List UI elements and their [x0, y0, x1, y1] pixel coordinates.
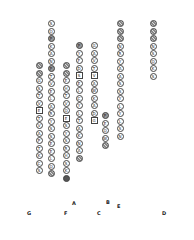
residue: K: [36, 152, 43, 159]
residue: V: [36, 100, 43, 107]
residue: L: [117, 118, 124, 125]
residue: [63, 175, 70, 182]
residue: S: [150, 73, 157, 80]
residue: V: [91, 57, 98, 64]
residue: [36, 62, 43, 69]
residue: [102, 142, 109, 149]
residue: S: [63, 137, 70, 144]
residue: H: [63, 152, 70, 159]
residue: A: [76, 125, 83, 132]
residue: P: [48, 65, 55, 72]
residue: T: [48, 73, 55, 80]
residue: S: [48, 125, 55, 132]
residue: E: [48, 88, 55, 95]
residue: G: [91, 117, 98, 124]
residue: [150, 35, 157, 42]
residue: E: [36, 107, 43, 114]
residue: C: [76, 95, 83, 102]
residue: K: [76, 132, 83, 139]
residue: P: [36, 137, 43, 144]
residue: S: [63, 122, 70, 129]
residue: S: [117, 125, 124, 132]
residue: T: [63, 92, 70, 99]
residue: V: [36, 122, 43, 129]
residue: Y: [76, 50, 83, 57]
residue: [150, 20, 157, 27]
residue: Y: [76, 102, 83, 109]
residue: W: [91, 87, 98, 94]
residue: L: [76, 87, 83, 94]
residue: G: [36, 77, 43, 84]
residue: Y: [63, 130, 70, 137]
residue: L: [48, 155, 55, 162]
residue: S: [150, 50, 157, 57]
residue: T: [76, 117, 83, 124]
residue: A: [48, 103, 55, 110]
label-e: E: [117, 203, 120, 209]
residue: [63, 62, 70, 69]
residue: P: [76, 42, 83, 49]
residue: N: [117, 43, 124, 50]
residue: C: [36, 160, 43, 167]
label-f: F: [64, 210, 67, 216]
residue: Y: [117, 110, 124, 117]
residue: N: [117, 133, 124, 140]
residue: S: [117, 80, 124, 87]
residue: [117, 35, 124, 42]
residue: S: [48, 133, 55, 140]
label-a: A: [72, 200, 76, 206]
residue: A: [91, 80, 98, 87]
residue: E: [48, 148, 55, 155]
residue: N: [150, 43, 157, 50]
residue: S: [36, 85, 43, 92]
residue: D: [91, 110, 98, 117]
residue: G: [91, 42, 98, 49]
residue: S: [48, 20, 55, 27]
residue: D: [76, 65, 83, 72]
residue: R: [48, 110, 55, 117]
label-c: C: [97, 210, 101, 216]
residue: N: [48, 58, 55, 65]
residue: A: [91, 102, 98, 109]
residue: T: [36, 145, 43, 152]
residue: L: [117, 103, 124, 110]
residue: R: [63, 145, 70, 152]
residue: V: [63, 100, 70, 107]
residue: Q: [63, 107, 70, 114]
residue: [63, 70, 70, 77]
residue: P: [48, 35, 55, 42]
residue: E: [76, 80, 83, 87]
residue: A: [117, 65, 124, 72]
residue: Q: [48, 163, 55, 170]
residue: Q: [48, 28, 55, 35]
residue: T: [91, 65, 98, 72]
residue: E: [63, 115, 70, 122]
residue: [150, 28, 157, 35]
residue: S: [76, 72, 83, 79]
residue: Q: [150, 58, 157, 65]
residue: [76, 155, 83, 162]
residue: [36, 70, 43, 77]
residue: S: [117, 88, 124, 95]
residue: A: [36, 130, 43, 137]
residue: L: [76, 110, 83, 117]
residue: [117, 20, 124, 27]
residue: K: [150, 65, 157, 72]
residue: N: [76, 140, 83, 147]
residue: W: [102, 135, 109, 142]
residue: H: [63, 85, 70, 92]
residue: R: [117, 50, 124, 57]
residue: Q: [102, 127, 109, 134]
residue: Y: [117, 58, 124, 65]
residue: S: [36, 167, 43, 174]
residue: K: [63, 167, 70, 174]
residue: T: [36, 115, 43, 122]
residue: [117, 28, 124, 35]
residue: S: [63, 160, 70, 167]
residue: K: [48, 43, 55, 50]
residue: E: [102, 120, 109, 127]
label-d: D: [162, 210, 166, 216]
label-g: G: [27, 210, 31, 216]
residue: K: [91, 95, 98, 102]
residue: Y: [48, 118, 55, 125]
